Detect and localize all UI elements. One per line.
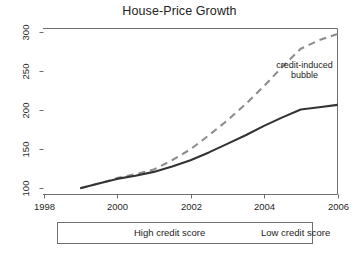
x-tick-label: 2004 bbox=[245, 201, 285, 212]
plot-canvas bbox=[0, 0, 359, 254]
x-tick-label: 2006 bbox=[319, 201, 359, 212]
legend-label-low-credit-score: Low credit score bbox=[261, 227, 330, 238]
y-tick-label: 150 bbox=[19, 136, 30, 162]
y-tick-label: 300 bbox=[19, 19, 30, 45]
y-tick-label: 200 bbox=[19, 97, 30, 123]
y-tick-label: 250 bbox=[19, 58, 30, 84]
annotation-line-2: bubble bbox=[264, 70, 344, 81]
series-line-high-credit-score bbox=[80, 105, 337, 188]
x-tick-label: 1998 bbox=[25, 201, 65, 212]
data-series-group bbox=[80, 34, 337, 188]
x-tick-label: 2002 bbox=[172, 201, 212, 212]
legend-label-high-credit-score: High credit score bbox=[134, 227, 205, 238]
x-tick-marks bbox=[45, 195, 339, 199]
annotation-line-1: credit-induced bbox=[264, 60, 344, 71]
y-tick-label: 100 bbox=[19, 175, 30, 201]
credit-induced-bubble-annotation: credit-induced bubble bbox=[264, 60, 344, 81]
x-tick-label: 2000 bbox=[98, 201, 138, 212]
house-price-growth-figure: House-Price Growth 100150200250300 19982… bbox=[0, 0, 359, 254]
y-tick-marks bbox=[40, 33, 44, 189]
plot-frame bbox=[44, 29, 338, 195]
